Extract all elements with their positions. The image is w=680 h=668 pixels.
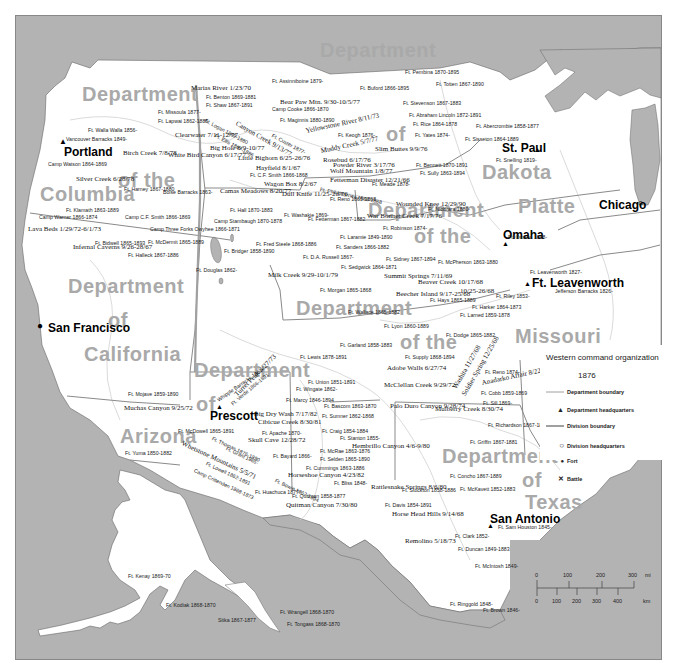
scale-km-tick: 400	[613, 598, 622, 604]
fort-label: Ft. Missoula 1877-	[158, 110, 201, 115]
fort-label: Ft. Hays 1865-1889	[430, 298, 476, 303]
fort-label: Ft. Hall 1870-1883	[230, 208, 273, 213]
triangle-icon: ▲	[502, 240, 509, 247]
fort-label: Ft. Clark 1852-	[455, 534, 489, 539]
dot-icon: ●	[540, 458, 564, 464]
fort-label: Ft. Halleck 1867-1886	[128, 253, 179, 258]
hq-circle-icon: ○	[638, 199, 643, 208]
fort-label: Ft. Sumner 1862-1868	[322, 414, 374, 419]
fort-label: Ft. Bennett 1870-1891	[416, 163, 468, 168]
fort-label: Ft. Concho 1867-1889	[450, 474, 502, 479]
fort-label: Ft. Lapwai 1862-1885	[158, 119, 208, 124]
battle-label: Mulberry Creek 8/30/74	[435, 406, 503, 413]
dept-california-line1: Department	[68, 276, 184, 296]
battle-label: Infernal Caverns 9/26-28/67	[73, 244, 152, 251]
fort-label: Ft. Sam Houston 1845-	[498, 525, 552, 530]
battle-label: Adobe Walls 6/27/74	[387, 365, 446, 372]
fort-label: Ft. Douglas 1862-	[196, 268, 237, 273]
dept-missouri-line3: Missouri	[515, 326, 601, 346]
fort-label: Ft. Dodge 1865-1882	[446, 333, 495, 338]
fort-label: Ft. Pembina 1870-1895	[405, 70, 459, 75]
fort-label: Ft. Sisseton 1864-1889	[465, 137, 519, 142]
battle-label: Hembrillo Canyon 4/6-9/80	[352, 443, 430, 450]
scale-mi-tick: 300	[628, 572, 637, 578]
city-prescott: Prescott	[210, 410, 258, 422]
fort-label: Ft. Benton 1869-1881	[206, 95, 256, 100]
battle-label: Remolino 5/18/73	[405, 538, 456, 545]
scale-km-tick: 200	[572, 598, 581, 604]
fort-label: Ft. Wingate 1862-	[296, 387, 337, 392]
fort-label: Camp C.F. Smith 1866-1869	[125, 215, 190, 220]
fort-label: Ft. Bliss 1848-	[334, 481, 367, 486]
fort-label: Ft. Kenay 1869-70	[128, 574, 171, 579]
scale-km-unit: km	[643, 598, 650, 604]
fort-label: Ft. Laramie 1849-1890	[340, 235, 392, 240]
battle-label: Cibicue Creek 8/30/81	[258, 419, 321, 426]
fort-label: Ft. Tongass 1868-1870	[287, 622, 340, 627]
fort-label: Camp Watson 1864-1869	[48, 162, 107, 167]
fort-label: Ft. Riley 1853-	[496, 294, 530, 299]
fort-label: Ft. Kodiak 1868-1870	[166, 603, 216, 608]
fort-label: Ft. Lyon 1860-1889	[384, 324, 429, 329]
legend-label: Department headquarters	[567, 407, 634, 413]
fort-label: Jefferson Barracks 1826-	[555, 289, 613, 294]
legend-label: Battle	[567, 476, 582, 482]
legend-label: Division headquarters	[567, 443, 625, 449]
fort-label: Sitka 1867-1877	[218, 618, 256, 623]
legend-item-division-hq: ○ Division headquarters	[540, 441, 625, 450]
scale-mi-tick: 100	[563, 572, 572, 578]
fort-label: Ft. Rice 1864-1878	[413, 122, 457, 127]
fort-label: Boise Barracks 1863-	[163, 190, 213, 195]
x-icon: ✕	[540, 475, 564, 483]
fort-label: Ft. Robinson 1874-	[383, 226, 427, 231]
fort-label: Ft. Mojave 1859-1890	[128, 392, 178, 397]
scale-bar: 0 100 200 300 mi 0 100 200 300 400 km	[533, 568, 653, 608]
battle-label: Wounded Knee 12/29/90	[396, 201, 466, 208]
fort-label: Ft. Omaha 1868-	[508, 235, 547, 240]
fort-label: Ft. Stevenson 1867-1883	[403, 101, 461, 106]
battle-label: Bear Paw Mtn. 9/30-10/5/77	[280, 99, 360, 106]
fort-label: Ft. Union 1851-1891	[308, 380, 355, 385]
battle-label: Muchas Canyon 9/25/72	[124, 405, 193, 412]
fort-label: Vancouver Barracks 1849-	[66, 137, 127, 142]
fort-label: Ft. Lewis 1878-1891	[300, 355, 347, 360]
fort-label: Camp Three Forks Owyhee 1866-1871	[150, 227, 240, 232]
fort-label: Ft. Sedgwick 1864-1871	[341, 265, 397, 270]
battle-label: Dull Knife 11/25-26/76	[282, 191, 348, 198]
battle-label: Rattlesnake Springs 8/6/80	[371, 484, 446, 491]
battle-label: Lava Beds 1/29/72-6/1/73	[28, 226, 101, 233]
fort-label: Ft. Snelling 1819-	[496, 158, 537, 163]
fort-label: Ft. McDowell 1865-1891	[178, 429, 234, 434]
fort-label: Ft. Harker 1864-1873	[472, 305, 521, 310]
battle-label: White Bird Canyon 6/17/77	[168, 152, 246, 159]
battle-label: Silver Creek 6/28/78	[76, 176, 134, 183]
dept-dakota-line2: of	[386, 124, 406, 144]
fort-label: Ft. Wallace 1865-1882	[348, 310, 400, 315]
fort-label: Ft. Richardson 1867-1878	[488, 423, 548, 428]
battle-label: Horse Head Hills 9/14/68	[392, 511, 464, 518]
fort-label: Ft. Leavenworth 1827-	[530, 270, 582, 275]
triangle-icon: ▲	[487, 522, 494, 529]
fort-label: Ft. Bridger 1858-1890	[224, 249, 274, 254]
fort-label: Camp Stambaugh 1870-1878	[214, 219, 282, 224]
fort-label: Ft. Wrangell 1868-1870	[280, 610, 334, 615]
scale-km-tick: 100	[552, 598, 561, 604]
fort-label: Ft. Huachuca 1877-	[255, 490, 301, 495]
battle-label: Beaver Creek 10/17/68	[418, 279, 483, 286]
fort-label: Ft. Garland 1858-1883	[340, 343, 392, 348]
fort-label: Ft. Sanders 1866-1882	[336, 245, 389, 250]
fort-label: Ft. Abraham Lincoln 1872-1891	[409, 113, 481, 118]
triangle-icon: ▲	[540, 406, 564, 413]
fort-label: Ft. Morgan 1865-1868	[320, 288, 371, 293]
fort-label: Camp Cooke 1866-1870	[272, 107, 329, 112]
battle-label: War Bonnet Creek 7/17/76	[367, 213, 442, 220]
battle-label: Beecher Island 9/17-25/68	[396, 291, 470, 298]
thick-line-icon	[540, 424, 564, 428]
thin-line-icon	[540, 390, 564, 394]
legend-label: Department boundary	[567, 389, 624, 395]
dept-california-line3: California	[84, 344, 181, 364]
fort-label: Ft. Abercrombie 1858-1877	[476, 124, 539, 129]
fort-label: Ft. Brown 1846-	[483, 608, 520, 613]
fort-label: Ft. D.A. Russell 1867-	[303, 255, 354, 260]
fort-label: Ft. Buford 1866-1895	[360, 86, 409, 91]
